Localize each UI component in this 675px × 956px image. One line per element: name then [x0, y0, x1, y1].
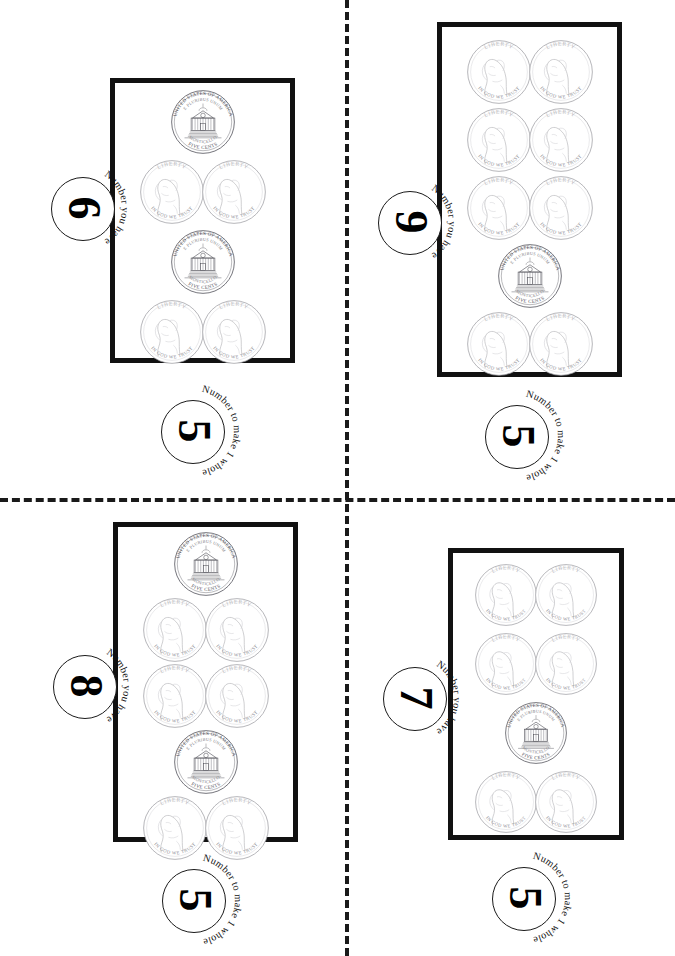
- bubble-whole-top-left: Number to make 1 whole 5: [146, 383, 242, 479]
- digit-whole-top-left: 5: [146, 383, 242, 479]
- bubble-whole-top-right: Number to make 1 whole 5: [470, 388, 566, 484]
- card-top-right: LIBERTY IN GOD WE TRUST LIBERTY IN GOD W…: [437, 22, 622, 377]
- card-bottom-right: LIBERTY IN GOD WE TRUST LIBERTY IN GOD W…: [448, 548, 624, 840]
- nickel-obverse-coin: LIBERTY IN GOD WE TRUST: [534, 563, 598, 627]
- nickel-obverse-coin: LIBERTY IN GOD WE TRUST: [528, 311, 594, 377]
- nickel-reverse-coin: UNITED STATES OF AMERICA E PLURIBUS UNUM…: [173, 729, 239, 795]
- card-top-left: UNITED STATES OF AMERICA E PLURIBUS UNUM…: [110, 78, 295, 363]
- nickel-obverse-coin: LIBERTY IN GOD WE TRUST: [139, 299, 205, 365]
- bubble-have-top-right: Number you have 9: [363, 174, 459, 270]
- horizontal-cut-line: [0, 498, 675, 502]
- nickel-reverse-coin: UNITED STATES OF AMERICA E PLURIBUS UNUM…: [173, 531, 239, 597]
- vertical-cut-line: [345, 0, 349, 956]
- nickel-obverse-coin: LIBERTY IN GOD WE TRUST: [201, 299, 267, 365]
- nickel-obverse-coin: LIBERTY IN GOD WE TRUST: [528, 39, 594, 105]
- nickel-obverse-coin: LIBERTY IN GOD WE TRUST: [142, 663, 208, 729]
- digit-whole-top-right: 5: [470, 388, 566, 484]
- bubble-have-bottom-right: Number you have 7: [368, 650, 464, 746]
- card-bottom-left: UNITED STATES OF AMERICA E PLURIBUS UNUM…: [113, 522, 298, 842]
- nickel-obverse-coin: LIBERTY IN GOD WE TRUST: [204, 663, 270, 729]
- coin-stack-bottom-right: LIBERTY IN GOD WE TRUST LIBERTY IN GOD W…: [453, 553, 619, 835]
- nickel-obverse-coin: LIBERTY IN GOD WE TRUST: [466, 39, 532, 105]
- nickel-obverse-coin: LIBERTY IN GOD WE TRUST: [528, 107, 594, 173]
- digit-whole-bottom-right: 5: [477, 850, 573, 946]
- bubble-whole-bottom-right: Number to make 1 whole 5: [477, 850, 573, 946]
- nickel-reverse-coin: UNITED STATES OF AMERICA E PLURIBUS UNUM…: [504, 701, 568, 765]
- digit-have-bottom-left: 8: [38, 638, 134, 734]
- nickel-obverse-coin: LIBERTY IN GOD WE TRUST: [466, 175, 532, 241]
- digit-have-top-right: 9: [363, 174, 459, 270]
- nickel-reverse-coin: UNITED STATES OF AMERICA E PLURIBUS UNUM…: [170, 89, 236, 155]
- nickel-obverse-coin: LIBERTY IN GOD WE TRUST: [528, 175, 594, 241]
- worksheet-sheet: UNITED STATES OF AMERICA E PLURIBUS UNUM…: [0, 0, 675, 956]
- coin-stack-top-left: UNITED STATES OF AMERICA E PLURIBUS UNUM…: [115, 83, 290, 358]
- nickel-obverse-coin: LIBERTY IN GOD WE TRUST: [534, 770, 598, 834]
- nickel-obverse-coin: LIBERTY IN GOD WE TRUST: [466, 107, 532, 173]
- nickel-obverse-coin: LIBERTY IN GOD WE TRUST: [474, 770, 538, 834]
- nickel-obverse-coin: LIBERTY IN GOD WE TRUST: [204, 597, 270, 663]
- coin-stack-top-right: LIBERTY IN GOD WE TRUST LIBERTY IN GOD W…: [442, 27, 617, 372]
- nickel-obverse-coin: LIBERTY IN GOD WE TRUST: [142, 597, 208, 663]
- nickel-obverse-coin: LIBERTY IN GOD WE TRUST: [534, 632, 598, 696]
- nickel-reverse-coin: UNITED STATES OF AMERICA E PLURIBUS UNUM…: [170, 229, 236, 295]
- nickel-obverse-coin: LIBERTY IN GOD WE TRUST: [474, 563, 538, 627]
- coin-stack-bottom-left: UNITED STATES OF AMERICA E PLURIBUS UNUM…: [118, 527, 293, 837]
- bubble-have-top-left: Number you have 6: [36, 160, 132, 256]
- bubble-have-bottom-left: Number you have 8: [38, 638, 134, 734]
- nickel-obverse-coin: LIBERTY IN GOD WE TRUST: [466, 311, 532, 377]
- bubble-whole-bottom-left: Number to make 1 whole 5: [147, 852, 243, 948]
- digit-whole-bottom-left: 5: [147, 852, 243, 948]
- nickel-reverse-coin: UNITED STATES OF AMERICA E PLURIBUS UNUM…: [497, 243, 563, 309]
- digit-have-bottom-right: 7: [368, 650, 464, 746]
- digit-have-top-left: 6: [36, 160, 132, 256]
- nickel-obverse-coin: LIBERTY IN GOD WE TRUST: [139, 159, 205, 225]
- nickel-obverse-coin: LIBERTY IN GOD WE TRUST: [201, 159, 267, 225]
- nickel-obverse-coin: LIBERTY IN GOD WE TRUST: [474, 632, 538, 696]
